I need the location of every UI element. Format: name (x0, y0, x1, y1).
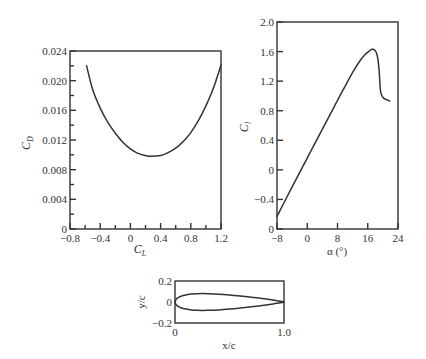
lift-curve-x-axis-label: α (°) (327, 245, 348, 258)
y-tick-label: 0.4 (260, 134, 274, 146)
drag-polar-ticks (70, 51, 221, 229)
lift-curve-frame (277, 22, 398, 229)
y-tick-label: 2.0 (260, 16, 274, 28)
figure-canvas: −0.8−0.400.40.81.200.0040.0080.0120.0160… (0, 0, 426, 359)
lift-curve-line (277, 49, 390, 216)
y-tick-label: 0 (269, 164, 275, 176)
drag-polar-frame (70, 51, 221, 229)
x-tick-label: −0.4 (90, 232, 110, 244)
airfoil-outline (175, 294, 284, 311)
x-tick-label: 16 (362, 232, 374, 244)
y-tick-label: 0.012 (42, 134, 67, 146)
x-tick-label: 0.4 (154, 232, 168, 244)
y-tick-label: 0.016 (42, 104, 67, 116)
lift-curve-y-axis-label: Cl (237, 121, 253, 132)
airfoil-x-axis-label: x/c (222, 339, 236, 351)
y-tick-label: 0 (62, 223, 68, 235)
y-tick-label: −0.2 (152, 317, 172, 329)
x-tick-label: 0 (172, 326, 178, 338)
x-tick-label: 1.0 (277, 326, 291, 338)
airfoil-frame (175, 281, 284, 323)
lift-curve-ticks (277, 22, 398, 229)
x-tick-label: 0 (305, 232, 311, 244)
drag-polar-x-axis-label: CL (134, 242, 147, 258)
y-tick-label: 0.008 (42, 164, 67, 176)
y-tick-label: 0.8 (260, 105, 274, 117)
y-tick-label: 0 (269, 223, 275, 235)
airfoil-shape-chart: 01.0−0.200.2 x/c y/c (135, 275, 291, 351)
y-tick-label: 1.6 (260, 46, 274, 58)
y-tick-label: 0.020 (42, 75, 67, 87)
x-tick-label: 0.8 (184, 232, 198, 244)
y-tick-label: 1.2 (260, 75, 274, 87)
y-tick-label: 0.2 (158, 275, 172, 287)
y-tick-label: 0.024 (42, 45, 67, 57)
x-tick-label: 0 (128, 232, 134, 244)
y-tick-label: 0 (167, 296, 173, 308)
airfoil-tick-labels: 01.0−0.200.2 (152, 275, 291, 338)
drag-polar-chart: −0.8−0.400.40.81.200.0040.0080.0120.0160… (19, 45, 228, 258)
drag-polar-y-axis-label: CD (19, 136, 35, 150)
x-tick-label: 8 (335, 232, 341, 244)
drag-polar-curve (87, 65, 221, 156)
y-tick-label: 0.004 (42, 193, 67, 205)
x-tick-label: 24 (393, 232, 405, 244)
y-tick-label: −0.4 (254, 193, 274, 205)
x-tick-label: 1.2 (214, 232, 228, 244)
lift-curve-chart: −80816240−0.400.40.81.21.62.0 α (°) Cl (237, 16, 404, 258)
airfoil-y-axis-label: y/c (135, 295, 147, 309)
